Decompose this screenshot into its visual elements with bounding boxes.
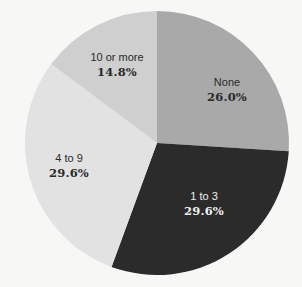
slice-category-label: None [214, 76, 240, 88]
slice-percentage-label: 26.0% [207, 90, 247, 104]
pie-chart: None26.0%1 to 329.6%4 to 929.6%10 or mor… [0, 0, 302, 287]
slice-percentage-label: 29.6% [184, 204, 224, 218]
slice-category-label: 10 or more [90, 51, 143, 63]
slice-percentage-label: 14.8% [97, 65, 137, 79]
slice-percentage-label: 29.6% [49, 166, 89, 180]
pie-slices [25, 11, 289, 275]
slice-category-label: 4 to 9 [55, 152, 83, 164]
slice-category-label: 1 to 3 [190, 190, 218, 202]
